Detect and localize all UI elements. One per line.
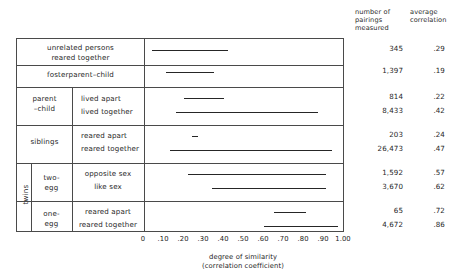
row-label-fosterparent-child: fosterparent–child bbox=[17, 70, 144, 80]
row-separator-4 bbox=[17, 163, 343, 164]
pairings-value: 65 bbox=[355, 206, 403, 216]
row-label-unrelated-line1: unrelated persons bbox=[17, 43, 144, 53]
group-label-parent-line2: –child bbox=[17, 104, 72, 114]
range-bar bbox=[192, 136, 198, 137]
pairings-value: 4,672 bbox=[355, 220, 403, 230]
x-axis-tick-label: .10 bbox=[157, 235, 168, 243]
pairings-header-line3: measured bbox=[355, 24, 403, 32]
x-axis-tick-label: .80 bbox=[297, 235, 308, 243]
pairings-value: 1,397 bbox=[355, 66, 403, 76]
pairings-value: 26,473 bbox=[355, 144, 403, 154]
pairings-header-line2: pairings bbox=[355, 16, 403, 24]
group-label-siblings: siblings bbox=[17, 137, 72, 147]
correlation-value: .29 bbox=[415, 44, 445, 54]
group-label-two-egg-line2: egg bbox=[31, 183, 72, 193]
pairings-value: 1,592 bbox=[355, 168, 403, 178]
range-bar bbox=[152, 50, 228, 51]
correlation-header-line1: average bbox=[410, 8, 460, 16]
correlation-value: .86 bbox=[415, 220, 445, 230]
range-bar bbox=[166, 72, 214, 73]
row-label-siblings-reared-apart: reared apart bbox=[81, 131, 127, 141]
plot-left-border bbox=[144, 39, 145, 231]
pairings-value: 3,670 bbox=[355, 182, 403, 192]
row-separator-5 bbox=[17, 201, 343, 202]
x-axis-tick-label: .20 bbox=[177, 235, 188, 243]
row-label-opposite-sex: opposite sex bbox=[72, 169, 144, 179]
correlation-value: .19 bbox=[415, 66, 445, 76]
row-label-one-egg-reared-apart: reared apart bbox=[72, 207, 144, 217]
x-axis-tick-label: .30 bbox=[197, 235, 208, 243]
correlation-value: .72 bbox=[415, 206, 445, 216]
row-label-like-sex: like sex bbox=[72, 182, 144, 192]
pairings-value: 814 bbox=[355, 92, 403, 102]
range-bar bbox=[176, 112, 318, 113]
correlation-value: .62 bbox=[415, 182, 445, 192]
range-bar bbox=[264, 226, 338, 227]
range-bar bbox=[170, 150, 332, 151]
row-label-unrelated-line2: reared together bbox=[17, 53, 144, 63]
x-axis-title-line2: (correlation coefficient) bbox=[143, 262, 343, 271]
correlation-value: .57 bbox=[415, 168, 445, 178]
row-label-lived-together: lived together bbox=[81, 107, 133, 117]
correlation-value: .47 bbox=[415, 144, 445, 154]
pairings-column-header: number of pairings measured bbox=[355, 8, 403, 33]
pairings-value: 203 bbox=[355, 130, 403, 140]
group-label-one-egg-line2: egg bbox=[31, 219, 72, 229]
row-label-siblings-reared-together: reared together bbox=[81, 144, 139, 154]
range-bar bbox=[188, 174, 326, 175]
row-separator-2 bbox=[17, 87, 343, 88]
group-label-twins: twins bbox=[21, 175, 30, 215]
x-axis-title: degree of similarity (correlation coeffi… bbox=[143, 253, 343, 270]
correlation-column-header: average correlation bbox=[410, 8, 460, 24]
range-bars-plot bbox=[17, 39, 343, 231]
group-label-one-egg-line1: one- bbox=[31, 209, 72, 219]
group-label-two-egg-line1: two- bbox=[31, 173, 72, 183]
row-label-lived-apart: lived apart bbox=[81, 94, 121, 104]
row-label-one-egg-reared-together: reared together bbox=[72, 220, 144, 230]
x-axis-tick-label: .90 bbox=[317, 235, 328, 243]
x-axis-tick-label: .70 bbox=[277, 235, 288, 243]
x-axis-tick-label: 0 bbox=[141, 235, 145, 243]
figure-root: number of pairings measured average corr… bbox=[0, 0, 464, 280]
pairings-value: 345 bbox=[355, 44, 403, 54]
row-separator-1 bbox=[17, 65, 343, 66]
row-separator-3 bbox=[17, 125, 343, 126]
x-axis-tick-label: .50 bbox=[237, 235, 248, 243]
correlation-value: .42 bbox=[415, 106, 445, 116]
correlation-value: .24 bbox=[415, 130, 445, 140]
column-headers: number of pairings measured average corr… bbox=[355, 8, 460, 38]
group-label-parent-line1: parent bbox=[17, 94, 72, 104]
range-bar bbox=[212, 188, 326, 189]
correlation-value: .22 bbox=[415, 92, 445, 102]
x-axis-tick-label: .40 bbox=[217, 235, 228, 243]
pairings-header-line1: number of bbox=[355, 8, 403, 16]
data-table: unrelated persons reared together foster… bbox=[16, 38, 344, 232]
range-bar bbox=[274, 212, 306, 213]
range-bar bbox=[184, 98, 224, 99]
x-axis-tick-label: .60 bbox=[257, 235, 268, 243]
correlation-header-line2: correlation bbox=[410, 16, 460, 24]
pairings-value: 8,433 bbox=[355, 106, 403, 116]
x-axis-title-line1: degree of similarity bbox=[143, 253, 343, 262]
x-axis-tick-label: 1.00 bbox=[335, 235, 351, 243]
